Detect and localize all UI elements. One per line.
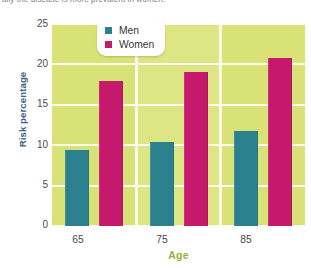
bar-women-85	[268, 58, 292, 226]
bar-men-85	[234, 131, 258, 226]
plot-area	[52, 24, 305, 226]
y-tick-label: 0	[14, 220, 48, 230]
x-tick-label: 65	[58, 234, 98, 245]
legend-label: Women	[119, 39, 154, 50]
x-axis-title: Age	[52, 249, 305, 261]
y-tick-label: 25	[14, 19, 48, 29]
bar-men-65	[65, 150, 89, 226]
y-axis-ticks: 25 20 15 10 5 0	[8, 0, 48, 268]
bar-men-75	[150, 142, 174, 226]
legend-label: Men	[119, 25, 139, 36]
legend: Men Women	[97, 18, 165, 56]
y-tick-label: 5	[14, 180, 48, 190]
group-separator	[219, 24, 222, 226]
y-axis-title: Risk percentage	[17, 55, 28, 165]
square-swatch-icon	[105, 27, 112, 34]
x-tick-label: 85	[226, 234, 266, 245]
square-swatch-icon	[105, 41, 112, 48]
bar-chart-figure: 25 20 15 10 5 0 Risk percentage 65 75 85…	[0, 0, 311, 268]
legend-entry-women: Women	[105, 37, 154, 51]
gridline	[52, 24, 305, 25]
bar-women-65	[99, 81, 123, 226]
legend-entry-men: Men	[105, 23, 154, 37]
bar-women-75	[184, 72, 208, 226]
x-tick-label: 75	[142, 234, 182, 245]
